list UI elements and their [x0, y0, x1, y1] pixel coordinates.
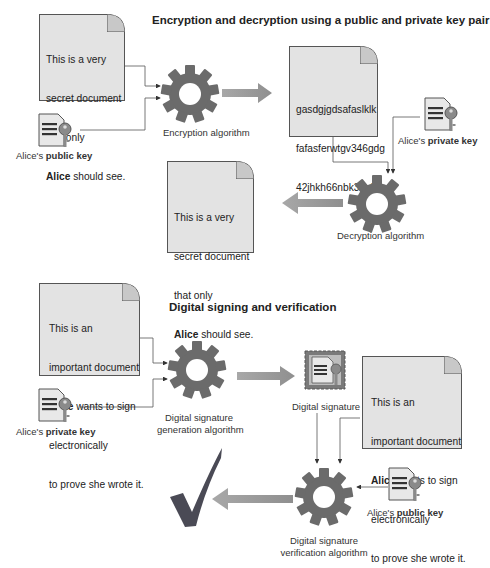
decrypted-bold-name: Alice	[174, 329, 198, 340]
digital-signature-icon	[303, 349, 349, 393]
section2-title: Digital signing and verification	[169, 301, 336, 313]
plaintext-line-1: This is a very	[46, 53, 125, 66]
signing-doc-line-4: electronically	[49, 439, 144, 452]
copy-doc-line-5: to prove she wrote it.	[371, 552, 466, 565]
ciphertext-document: gasdgjgdsafaslklk fafasferwtgv346gdg 42j…	[289, 46, 378, 137]
copy-doc-line-2: important document	[371, 435, 466, 448]
verification-gear-icon	[294, 467, 354, 527]
public-key-label-1: Alice's public key	[16, 150, 92, 162]
private-key-label-1: Alice's private key	[398, 135, 477, 147]
encryption-gear-icon	[160, 64, 220, 124]
decrypted-line-1: This is a very	[174, 211, 253, 224]
generation-label: Digital signaturegeneration algorithm	[157, 412, 241, 436]
signature-label: Digital signature	[292, 401, 360, 413]
encryption-label: Encryption algorithm	[163, 127, 250, 139]
section1-title: Encryption and decryption using a public…	[152, 14, 489, 26]
signing-doc-line-2: important document	[49, 361, 144, 374]
decryption-gear-icon	[347, 174, 407, 234]
private-key-label-2: Alice's private key	[16, 426, 95, 438]
ciphertext-line-1: gasdgjgdsafaslklk	[296, 103, 387, 116]
arrow-to-checkmark	[212, 488, 293, 510]
plaintext-line-2: secret document	[46, 92, 125, 105]
verification-label: Digital signatureverification algorithm	[276, 535, 372, 559]
public-key-icon-2	[388, 467, 432, 503]
private-key-icon-2	[38, 388, 82, 424]
plaintext-document: This is a very secret document that only…	[39, 14, 125, 101]
ciphertext-line-2: fafasferwtgv346gdg	[296, 142, 387, 155]
document-copy: This is an important document Alice want…	[362, 356, 462, 449]
private-key-icon	[424, 97, 468, 133]
public-key-icon	[38, 113, 82, 149]
decryption-label: Decryption algorithm	[337, 230, 424, 242]
decrypted-document: This is a very secret document that only…	[167, 161, 254, 253]
signing-document: This is an important document Alice want…	[39, 283, 140, 376]
signing-doc-line-1: This is an	[49, 322, 144, 335]
public-key-label-2: Alice's public key	[367, 507, 443, 519]
generation-gear-icon	[167, 340, 227, 400]
arrow-to-ciphertext	[222, 83, 272, 103]
copy-doc-line-1: This is an	[371, 396, 466, 409]
decrypted-line-2: secret document	[174, 250, 253, 263]
arrow-to-signature	[237, 366, 295, 386]
signing-doc-line-5: to prove she wrote it.	[49, 478, 144, 491]
plaintext-bold-name: Alice	[46, 171, 70, 182]
checkmark-icon	[170, 448, 222, 527]
